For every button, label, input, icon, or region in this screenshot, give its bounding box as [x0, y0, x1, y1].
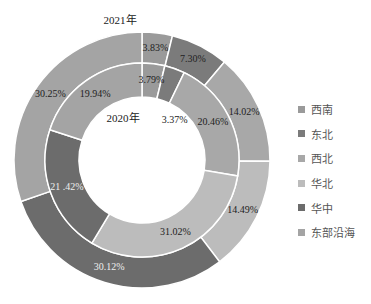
legend-label: 西南: [311, 101, 333, 117]
legend-item-huazhong[interactable]: 华中: [298, 195, 355, 220]
legend-swatch-icon: [298, 130, 305, 137]
inner-label-0: 3.79%: [139, 74, 165, 85]
inner-ring-title: 2020年: [107, 111, 140, 124]
legend-item-xinan[interactable]: 西南: [298, 97, 355, 122]
legend-swatch-icon: [298, 180, 305, 187]
inner-ring-2020: [45, 63, 239, 257]
outer-ring-title: 2021年: [104, 13, 137, 26]
inner-label-2: 20.46%: [198, 116, 229, 127]
outer-label-0: 3.83%: [143, 42, 169, 53]
outer-label-1: 7.30%: [180, 53, 206, 64]
legend-label: 西北: [311, 150, 333, 166]
legend-swatch-icon: [298, 204, 305, 211]
legend-swatch-icon: [298, 155, 305, 162]
legend-label: 华中: [311, 200, 333, 216]
legend-item-dongbei[interactable]: 东北: [298, 122, 355, 147]
legend-swatch-icon: [298, 106, 305, 113]
inner-label-3: 31.02%: [160, 226, 191, 237]
inner-label-1: 3.37%: [162, 114, 188, 125]
legend-label: 东北: [311, 126, 333, 142]
inner-label-5: 19.94%: [80, 88, 111, 99]
legend-label: 东部沿海: [311, 224, 355, 240]
legend: 西南 东北 西北 华北 华中 东部沿海: [298, 97, 355, 245]
legend-item-dongbu-yanhai[interactable]: 东部沿海: [298, 220, 355, 245]
outer-label-2: 14.02%: [229, 106, 260, 117]
legend-swatch-icon: [298, 229, 305, 236]
outer-label-5: 30.25%: [35, 88, 66, 99]
inner-label-4: 21 .42%: [50, 181, 83, 192]
outer-label-3: 14.49%: [227, 204, 258, 215]
legend-item-huabei[interactable]: 华北: [298, 171, 355, 196]
legend-label: 华北: [311, 175, 333, 191]
legend-item-xibei[interactable]: 西北: [298, 146, 355, 171]
outer-label-4: 30.12%: [94, 261, 125, 272]
